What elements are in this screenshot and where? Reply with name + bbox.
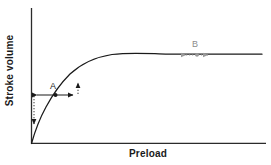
- y-axis-label: Stroke volume: [0, 0, 20, 140]
- plot-canvas: [0, 0, 271, 165]
- marker-a-point: [54, 93, 58, 97]
- curve-group: [32, 53, 263, 143]
- marker-a-label: A: [50, 81, 56, 91]
- marker-b-point: [195, 53, 199, 57]
- x-axis-label: Preload: [31, 148, 265, 159]
- marker-b-label: B: [192, 39, 198, 49]
- frank-starling-curve-figure: Stroke volume Preload A B: [0, 0, 271, 165]
- axis-lines: [31, 8, 266, 144]
- y-axis-label-text: Stroke volume: [5, 34, 16, 106]
- stroke-volume-curve: [32, 53, 263, 143]
